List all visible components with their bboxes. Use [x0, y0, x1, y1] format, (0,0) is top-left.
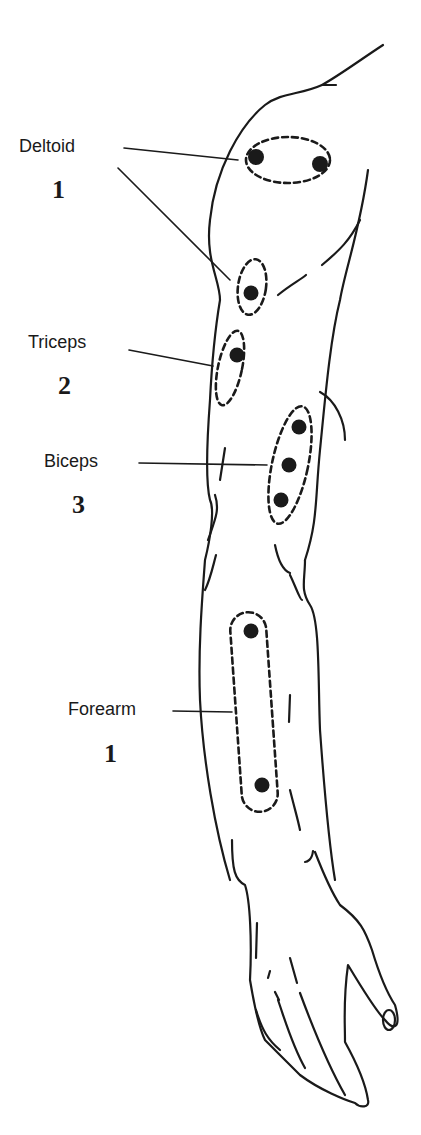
deltoid-point: [248, 149, 264, 165]
triceps-leader-line: [129, 350, 213, 366]
biceps-count: 3: [72, 490, 85, 520]
injection-points: [230, 149, 329, 793]
forearm-leader-line: [173, 711, 232, 712]
arm-illustration: [0, 0, 421, 1135]
triceps-count: 2: [58, 371, 71, 401]
triceps-label: Triceps: [28, 332, 86, 353]
deltoid-point: [312, 156, 328, 172]
forearm-count: 1: [104, 739, 117, 769]
deltoid-point: [244, 286, 259, 301]
triceps-point: [230, 348, 245, 363]
arm-outline-forearm-front: [304, 560, 335, 880]
biceps-point: [274, 493, 289, 508]
arm-diagram: Deltoid 1 Triceps 2 Biceps 3 Forearm 1: [0, 0, 421, 1135]
forearm-label: Forearm: [68, 699, 136, 720]
biceps-point: [292, 420, 307, 435]
deltoid-label: Deltoid: [19, 136, 75, 157]
biceps-leader-line: [139, 463, 267, 465]
hand-outline: [232, 840, 398, 1106]
forearm-point: [244, 624, 259, 639]
triceps-region: [210, 328, 249, 407]
deltoid-leader-line: [124, 148, 238, 160]
arm-outline-front-upper: [305, 170, 368, 560]
biceps-label: Biceps: [44, 451, 98, 472]
forearm-region: [229, 611, 279, 813]
deltoid-leader-line-2: [118, 168, 230, 280]
deltoid-count: 1: [52, 175, 65, 205]
arm-outline-shoulder: [209, 45, 383, 300]
forearm-point: [255, 778, 270, 793]
biceps-point: [282, 458, 297, 473]
